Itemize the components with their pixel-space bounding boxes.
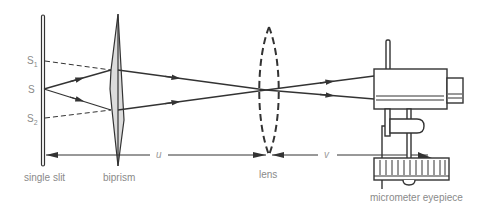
biprism (110, 14, 124, 166)
biprism-label: biprism (103, 173, 135, 183)
distance-u-label: u (156, 150, 162, 160)
distance-v-label: v (324, 150, 329, 160)
single-slit (42, 15, 45, 166)
source-s1-label: S1 (27, 56, 38, 68)
biprism-diagram (0, 0, 483, 205)
source-s-label: S (28, 85, 35, 95)
micrometer-eyepiece-label: micrometer eyepiece (370, 193, 463, 203)
rays (44, 70, 374, 110)
virtual-rays (45, 61, 111, 118)
single-slit-label: single slit (24, 173, 65, 183)
micrometer-eyepiece (374, 40, 463, 189)
lens-label: lens (259, 170, 277, 180)
source-s2-label: S2 (27, 114, 38, 126)
